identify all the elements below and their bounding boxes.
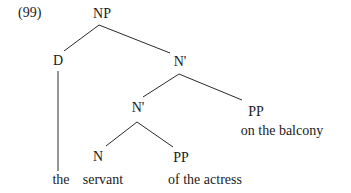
node-n: N [93, 149, 103, 165]
example-number: (99) [18, 5, 41, 21]
leaf-of-the-actress: of the actress [168, 172, 242, 188]
node-nbar-lower: N' [132, 100, 145, 116]
syntax-tree-diagram: (99) NP D N' N' PP N PP the servant of t… [0, 0, 351, 193]
leaf-on-the-balcony: on the balcony [241, 123, 323, 139]
branch-nbar-nbar [143, 74, 179, 97]
node-nbar-upper: N' [174, 54, 187, 70]
node-np: NP [93, 6, 111, 22]
node-pp-actress: PP [173, 150, 189, 166]
leaf-servant: servant [83, 172, 123, 188]
branch-np-nbar [99, 25, 170, 53]
node-pp-balcony: PP [248, 104, 264, 120]
node-d: D [53, 53, 63, 69]
branch-nbar-n [106, 122, 137, 146]
branch-nbar-pp-actress [137, 122, 173, 147]
branch-np-d [64, 25, 99, 51]
leaf-the: the [52, 172, 69, 188]
branch-nbar-pp-balcony [179, 74, 242, 100]
